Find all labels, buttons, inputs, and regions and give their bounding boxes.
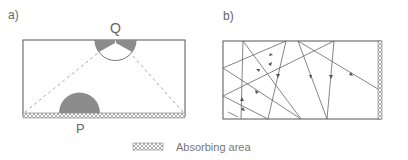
panel-b-label: b) (223, 9, 234, 23)
point-p-label: P (76, 121, 85, 136)
room-outline-a (23, 40, 185, 115)
diagram-canvas (0, 0, 408, 160)
panel-b (223, 41, 382, 119)
legend-label: Absorbing area (176, 141, 251, 153)
dashed-ray-right (132, 55, 183, 112)
point-q-label: Q (110, 20, 121, 36)
panel-a (23, 40, 185, 118)
absorbing-floor (23, 113, 185, 118)
panel-a-label: a) (8, 8, 19, 22)
receiver-q-wedge-right (116, 40, 136, 52)
ray-arrows (240, 53, 353, 111)
absorbing-wall (378, 41, 382, 119)
source-p-shape (59, 93, 100, 113)
receiver-q-wedge-left (95, 40, 115, 52)
legend-swatch (133, 143, 163, 150)
